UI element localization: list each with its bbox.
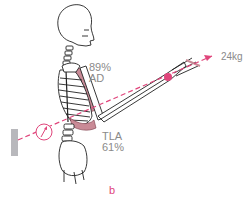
skull-icon — [58, 5, 94, 46]
lumbar-spine — [62, 124, 74, 141]
panel-label: b — [109, 185, 115, 196]
skeleton-illustration — [0, 0, 250, 202]
pelvis — [59, 141, 87, 184]
wall-block — [11, 129, 18, 156]
scapula — [62, 63, 80, 72]
force-arrowhead-icon — [204, 55, 212, 61]
load-label: 24kg — [221, 51, 243, 62]
ad-label: 89% AD — [89, 62, 111, 84]
hand-joint-marker — [164, 73, 172, 81]
pressure-gauge-icon — [36, 124, 52, 140]
tla-percent: 61% — [102, 142, 124, 153]
cervical-spine — [63, 46, 73, 65]
figure-canvas: 89% AD TLA 61% 24kg b — [0, 0, 250, 202]
tla-label: TLA 61% — [102, 131, 124, 153]
ad-abbr: AD — [89, 73, 111, 84]
